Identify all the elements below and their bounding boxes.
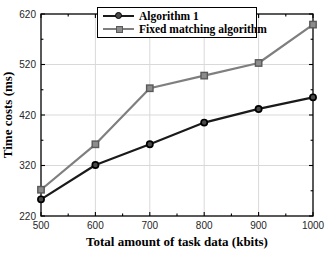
data-point-square xyxy=(201,72,207,78)
x-tick-label: 600 xyxy=(87,220,104,231)
x-axis-label: Total amount of task data (kbits) xyxy=(86,234,268,249)
plot-background xyxy=(0,0,329,263)
legend-item-algorithm-1: Algorithm 1 xyxy=(103,9,256,23)
data-point-circle xyxy=(201,119,207,125)
y-axis-label: Time costs (ms) xyxy=(0,72,15,158)
data-point-circle xyxy=(256,106,262,112)
legend-swatch-square-line xyxy=(103,25,134,34)
data-point-circle xyxy=(147,141,153,147)
data-point-circle xyxy=(310,94,316,100)
data-point-square xyxy=(92,141,98,147)
y-tick-label: 320 xyxy=(19,160,36,171)
line-chart-canvas: 5006007008009001000220320420520620Total … xyxy=(0,0,329,263)
y-tick-label: 520 xyxy=(19,59,36,70)
data-point-circle xyxy=(92,162,98,168)
chart-legend: Algorithm 1 Fixed matching algorithm xyxy=(97,7,257,38)
x-tick-label: 700 xyxy=(141,220,158,231)
legend-swatch-circle-line xyxy=(103,11,134,20)
x-tick-label: 800 xyxy=(196,220,213,231)
y-tick-label: 220 xyxy=(19,211,36,222)
data-point-square xyxy=(38,187,44,193)
data-point-square xyxy=(310,21,316,27)
legend-label-fixed-matching: Fixed matching algorithm xyxy=(139,23,267,35)
x-tick-label: 1000 xyxy=(302,220,325,231)
x-tick-label: 900 xyxy=(250,220,267,231)
legend-label-algorithm-1: Algorithm 1 xyxy=(139,10,199,22)
data-point-circle xyxy=(38,196,44,202)
data-point-square xyxy=(147,85,153,91)
x-tick-label: 500 xyxy=(33,220,50,231)
legend-item-fixed-matching: Fixed matching algorithm xyxy=(103,23,256,37)
chart-figure: 5006007008009001000220320420520620Total … xyxy=(0,0,329,263)
data-point-square xyxy=(255,60,261,66)
y-tick-label: 420 xyxy=(19,110,36,121)
y-tick-label: 620 xyxy=(19,9,36,20)
circle-marker-icon xyxy=(115,12,122,19)
square-marker-icon xyxy=(116,26,123,33)
